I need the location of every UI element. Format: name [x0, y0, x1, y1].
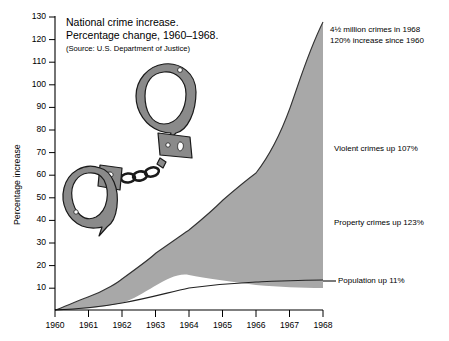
y-tick-130: 130 — [20, 11, 46, 21]
annotation-property-crimes: Property crimes up 123% — [334, 218, 424, 229]
annotation-total-crimes-line2: 120% increase since 1960 — [330, 36, 424, 47]
y-tick-marks — [49, 17, 55, 288]
annotation-total-crimes-line1: 4½ million crimes in 1968 — [330, 25, 420, 36]
y-tick-30: 30 — [20, 237, 46, 247]
y-tick-90: 90 — [20, 101, 46, 111]
y-tick-80: 80 — [20, 124, 46, 134]
annotation-violent-crimes: Violent crimes up 107% — [334, 144, 418, 155]
y-tick-50: 50 — [20, 192, 46, 202]
chart-title-line2: Percentage change, 1960–1968. — [66, 29, 218, 42]
y-tick-20: 20 — [20, 260, 46, 270]
y-tick-120: 120 — [20, 34, 46, 44]
chart-source: (Source: U.S. Department of Justice) — [66, 44, 190, 53]
crime-increase-chart: National crime increase. Percentage chan… — [0, 0, 449, 341]
chart-title-line1: National crime increase. — [66, 16, 179, 29]
y-tick-60: 60 — [20, 169, 46, 179]
y-tick-100: 100 — [20, 79, 46, 89]
y-tick-70: 70 — [20, 147, 46, 157]
y-tick-110: 110 — [20, 56, 46, 66]
crime-band-area — [55, 22, 323, 310]
x-tick-1968: 1968 — [303, 320, 343, 330]
annotation-population: Population up 11% — [338, 276, 405, 287]
y-tick-10: 10 — [20, 282, 46, 292]
y-tick-40: 40 — [20, 214, 46, 224]
handcuffs-icon — [63, 64, 196, 236]
x-tick-marks — [55, 310, 323, 317]
